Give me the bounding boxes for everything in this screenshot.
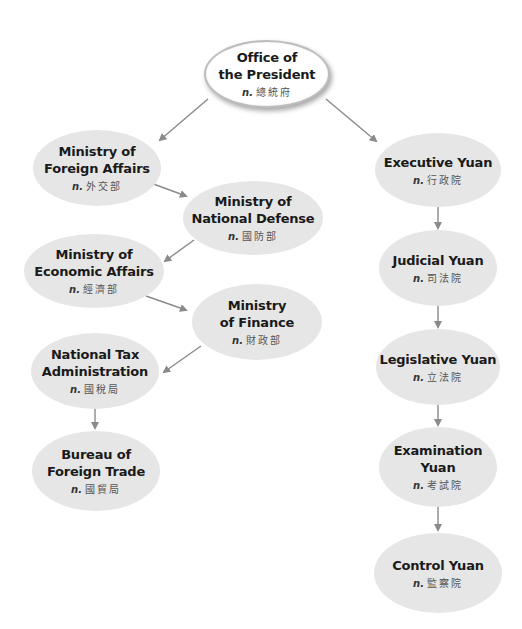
node-label-zh: n.監察院 xyxy=(413,577,463,590)
node-ministry-of-economic-affairs: Ministry of Economic Affairs n.經濟部 xyxy=(24,234,164,308)
node-label-zh: n.國稅局 xyxy=(70,383,120,396)
node-label-zh: n.外交部 xyxy=(72,180,122,193)
node-label-zh: n.立法院 xyxy=(413,371,463,384)
node-label-en: Ministry of Finance xyxy=(220,297,294,331)
node-label-en: National Tax Administration xyxy=(42,346,148,380)
node-label-en: Ministry of Foreign Affairs xyxy=(44,143,150,177)
arrow-president-to-executive-yuan xyxy=(326,99,376,141)
node-label-en: Examination Yuan xyxy=(394,442,483,476)
node-control-yuan: Control Yuan n.監察院 xyxy=(374,533,502,613)
node-label-en: Executive Yuan xyxy=(384,154,492,171)
node-label-en: Judicial Yuan xyxy=(393,252,484,269)
arrow-national-defense-to-economic-affairs xyxy=(165,240,194,261)
arrow-economic-affairs-to-finance xyxy=(146,296,186,310)
arrow-finance-to-national-tax xyxy=(164,346,201,372)
node-ministry-of-national-defense: Ministry of National Defense n.國防部 xyxy=(183,181,323,255)
node-executive-yuan: Executive Yuan n.行政院 xyxy=(375,133,501,207)
node-examination-yuan: Examination Yuan n.考試院 xyxy=(379,427,497,507)
node-legislative-yuan: Legislative Yuan n.立法院 xyxy=(376,329,500,405)
node-office-of-the-president: Office of the President n.總統府 xyxy=(204,40,330,108)
org-chart-diagram: Office of the President n.總統府 Ministry o… xyxy=(0,0,522,629)
node-ministry-of-foreign-affairs: Ministry of Foreign Affairs n.外交部 xyxy=(33,130,161,206)
node-label-en: Legislative Yuan xyxy=(380,351,497,368)
node-label-zh: n.總統府 xyxy=(242,86,292,99)
arrow-president-to-foreign-affairs xyxy=(160,99,208,140)
node-label-en: Ministry of Economic Affairs xyxy=(34,246,154,280)
node-label-zh: n.國貿局 xyxy=(71,483,121,496)
node-label-en: Ministry of National Defense xyxy=(192,193,315,227)
node-label-zh: n.行政院 xyxy=(413,174,463,187)
node-label-zh: n.國防部 xyxy=(228,230,278,243)
node-bureau-of-foreign-trade: Bureau of Foreign Trade n.國貿局 xyxy=(32,431,160,511)
node-label-zh: n.考試院 xyxy=(413,479,463,492)
node-label-zh: n.經濟部 xyxy=(69,283,119,296)
node-label-zh: n.財政部 xyxy=(232,334,282,347)
node-label-zh: n.司法院 xyxy=(413,272,463,285)
node-label-en: Bureau of Foreign Trade xyxy=(47,446,145,480)
node-judicial-yuan: Judicial Yuan n.司法院 xyxy=(379,230,497,306)
node-label-en: Control Yuan xyxy=(392,557,484,574)
node-ministry-of-finance: Ministry of Finance n.財政部 xyxy=(192,284,322,360)
node-national-tax-administration: National Tax Administration n.國稅局 xyxy=(31,333,159,409)
node-label-en: Office of the President xyxy=(219,49,316,83)
